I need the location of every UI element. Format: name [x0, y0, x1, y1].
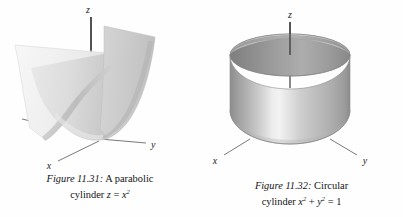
- figure-number-label: Figure 11.32:: [255, 180, 312, 191]
- caption-equation-plus: +: [306, 196, 317, 207]
- figure-number-label: Figure 11.31:: [47, 173, 104, 184]
- caption-equation-value: 1: [336, 196, 341, 207]
- y-axis-line: [330, 139, 357, 155]
- caption-equation-prefix: cylinder: [70, 189, 107, 200]
- y-axis-line: [100, 139, 146, 143]
- x-axis-line: [58, 141, 99, 161]
- axis-label-z: z: [85, 4, 90, 15]
- caption-equation-equals: =: [325, 196, 336, 207]
- caption-equation-equals: =: [111, 189, 122, 200]
- caption-descriptor: Circular: [314, 180, 348, 191]
- axis-label-y: y: [150, 139, 156, 150]
- caption-equation-exponent: 2: [127, 188, 130, 195]
- figure-caption-parabolic: Figure 11.31: A parabolic cylinder z = x…: [0, 173, 200, 202]
- caption-line-1: Figure 11.31: A parabolic: [0, 173, 200, 186]
- axis-label-z: z: [287, 9, 292, 20]
- caption-descriptor: A parabolic: [105, 173, 153, 184]
- figure-page: z y x Figure 11.31: A parabolic cylinder…: [0, 0, 403, 217]
- x-axis-line: [224, 139, 250, 155]
- caption-line-1: Figure 11.32: Circular: [200, 180, 403, 193]
- figure-panel-parabolic: z y x Figure 11.31: A parabolic cylinder…: [0, 0, 200, 217]
- figure-panel-circular: z x y Figure 11.32: Circular cylinder x2…: [200, 0, 403, 217]
- caption-line-2: cylinder x2 + y2 = 1: [200, 193, 403, 209]
- caption-equation-prefix: cylinder: [262, 196, 299, 207]
- circular-cylinder-graphic: z x y: [200, 0, 403, 172]
- axis-label-x: x: [212, 155, 218, 166]
- axis-label-x: x: [46, 160, 52, 171]
- parabolic-surface: [15, 26, 155, 141]
- figure-caption-circular: Figure 11.32: Circular cylinder x2 + y2 …: [200, 180, 403, 209]
- caption-line-2: cylinder z = x2: [0, 186, 200, 202]
- axis-label-y: y: [362, 155, 368, 166]
- parabolic-cylinder-graphic: z y x: [0, 0, 200, 172]
- parabolic-right-wing: [100, 26, 155, 138]
